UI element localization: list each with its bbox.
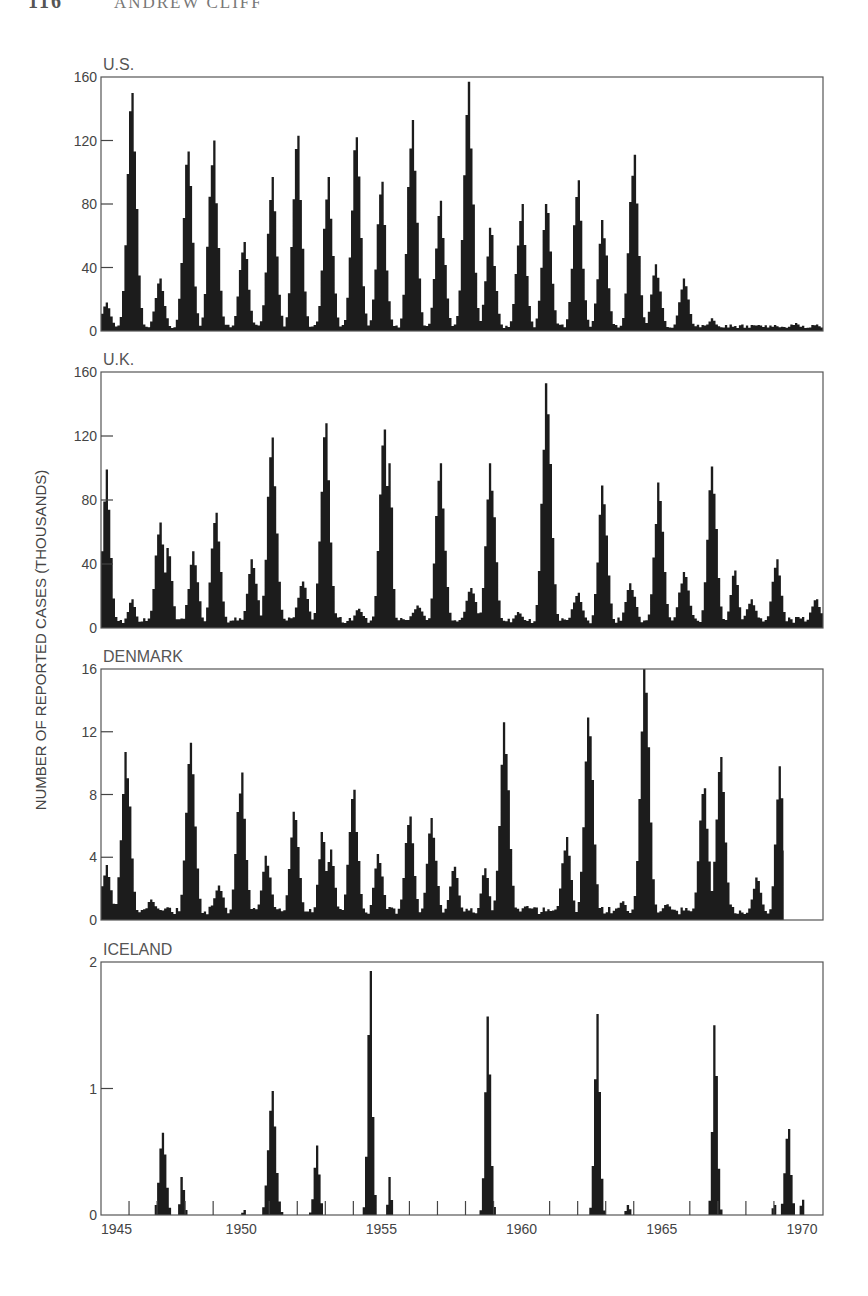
y-tick-label: 160 [74,364,98,380]
panel-title: U.S. [103,56,134,73]
panel-title: ICELAND [103,941,172,958]
bars-denmark [101,669,784,920]
y-tick-label: 160 [74,69,98,85]
y-tick-label: 40 [81,260,97,276]
x-tick-label: 1960 [506,1221,537,1237]
y-tick-label: 16 [81,661,97,677]
panel-denmark: DENMARK0481216 [81,648,823,928]
y-tick-label: 4 [89,849,97,865]
y-tick-label: 1 [89,1081,97,1097]
bars-u-s [101,82,823,331]
y-tick-label: 40 [81,556,97,572]
x-tick-label: 1950 [226,1221,257,1237]
y-tick-label: 0 [89,323,97,339]
x-tick-label: 1970 [786,1221,817,1237]
panel-title: U.K. [103,351,134,368]
panel-u-k: U.K.04080120160 [74,351,823,636]
y-tick-label: 120 [74,133,98,149]
y-tick-label: 0 [89,620,97,636]
panel-title: DENMARK [103,648,183,665]
panel-iceland: ICELAND012 [89,941,823,1223]
bars-u-k [101,383,823,628]
y-tick-label: 80 [81,492,97,508]
bars-iceland [101,971,823,1215]
y-tick-label: 8 [89,787,97,803]
x-tick-label: 1965 [646,1221,677,1237]
y-tick-label: 12 [81,724,97,740]
y-tick-label: 120 [74,428,98,444]
y-tick-label: 0 [89,1207,97,1223]
panel-u-s: U.S.04080120160 [74,56,823,339]
y-tick-label: 80 [81,196,97,212]
x-tick-label: 1945 [101,1221,132,1237]
measles-epidemics-chart: U.S.04080120160U.K.04080120160DENMARK048… [0,0,868,1296]
y-tick-label: 0 [89,912,97,928]
x-tick-label: 1955 [366,1221,397,1237]
y-tick-label: 2 [89,954,97,970]
